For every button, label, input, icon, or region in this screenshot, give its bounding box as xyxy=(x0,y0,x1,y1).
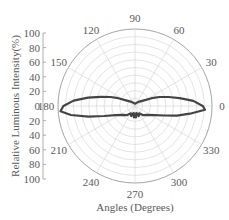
x-axis-title: Angles (Degrees) xyxy=(96,201,174,214)
y-axis-title: Relative Luminous Intensity(%) xyxy=(9,35,22,177)
polar-grid xyxy=(58,29,212,183)
angle-tick-label: 180 xyxy=(38,100,55,112)
angle-tick-label: 150 xyxy=(51,56,68,68)
angle-tick-label: 30 xyxy=(206,56,218,68)
angle-tick-label: 0 xyxy=(219,100,225,112)
radial-tick-label: 20 xyxy=(29,115,41,127)
angle-tick-label: 270 xyxy=(127,188,144,200)
radial-tick-label: 80 xyxy=(29,158,41,170)
radial-tick-label: 40 xyxy=(29,129,41,141)
radial-tick-label: 100 xyxy=(24,173,41,185)
angle-tick-label: 330 xyxy=(203,144,220,156)
radial-tick-label: 60 xyxy=(29,144,41,156)
angle-tick-label: 210 xyxy=(51,144,68,156)
radial-tick-label: 0 xyxy=(35,100,41,112)
radial-axis: 10080604020020406080100 xyxy=(24,27,47,185)
radial-tick-label: 20 xyxy=(29,85,41,97)
angle-tick-label: 90 xyxy=(130,12,142,24)
angle-tick-label: 240 xyxy=(83,176,100,188)
grid-spoke xyxy=(68,106,135,145)
angle-tick-label: 60 xyxy=(174,24,186,36)
polar-chart: 0306090120150180210240270300330 10080604… xyxy=(0,0,229,220)
radial-tick-label: 40 xyxy=(29,71,41,83)
radial-tick-label: 80 xyxy=(29,42,41,54)
angle-tick-label: 120 xyxy=(83,24,100,36)
radial-tick-label: 60 xyxy=(29,56,41,68)
angle-tick-label: 300 xyxy=(171,176,188,188)
radial-tick-label: 100 xyxy=(24,27,41,39)
grid-spoke xyxy=(135,106,202,145)
